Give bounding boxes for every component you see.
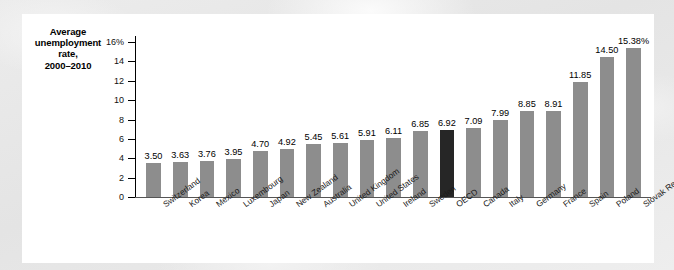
x-axis-category-label: France bbox=[561, 201, 567, 209]
y-axis-tick-label: 10 bbox=[98, 95, 124, 105]
y-axis-tick-label: 0 bbox=[98, 192, 124, 202]
y-axis-tick bbox=[128, 100, 135, 101]
x-axis-category-label: Canada bbox=[481, 201, 487, 209]
x-axis-category-label: Luxembourg bbox=[241, 201, 247, 209]
x-axis-category-label: Slovak Republic bbox=[641, 201, 647, 209]
figure-panel: Average unemployment rate, 2000–2010 024… bbox=[22, 14, 654, 263]
y-axis-tick bbox=[128, 61, 135, 62]
y-axis-tick-label: 2 bbox=[98, 172, 124, 182]
x-axis-category-label: Australia bbox=[321, 201, 327, 209]
y-axis-tick bbox=[128, 42, 135, 43]
bar-chart: Average unemployment rate, 2000–2010 024… bbox=[22, 14, 654, 263]
x-axis-category-label: Mexico bbox=[214, 201, 220, 209]
y-axis-tick-label: 16% bbox=[98, 37, 124, 47]
bar-value-label: 15.38% bbox=[614, 36, 654, 46]
y-axis-tick-label: 8 bbox=[98, 114, 124, 124]
x-axis-category-label: United Kingdom bbox=[347, 201, 353, 209]
bar-value-label: 7.09 bbox=[454, 116, 494, 126]
y-axis-tick-label: 6 bbox=[98, 133, 124, 143]
x-axis-category-label: OECD bbox=[454, 201, 460, 209]
bar bbox=[146, 163, 161, 197]
bar bbox=[573, 82, 588, 197]
y-axis-line bbox=[135, 36, 136, 198]
x-axis-category-label: New Zealand bbox=[294, 201, 300, 209]
y-axis-tick-label: 4 bbox=[98, 153, 124, 163]
bar-value-label: 8.91 bbox=[534, 99, 574, 109]
y-axis-tick-label: 12 bbox=[98, 75, 124, 85]
x-axis-category-label: Poland bbox=[614, 201, 620, 209]
bar-value-label: 11.85 bbox=[560, 70, 600, 80]
bar-value-label: 14.50 bbox=[587, 45, 627, 55]
x-axis-category-label: Italy bbox=[507, 201, 513, 209]
x-axis-category-label: Switzerland bbox=[161, 201, 167, 209]
x-axis-category-label: Ireland bbox=[401, 201, 407, 209]
y-axis-tick-label: 14 bbox=[98, 56, 124, 66]
x-axis-category-label: Sweden bbox=[427, 201, 433, 209]
bar bbox=[600, 57, 615, 197]
x-axis-category-label: Germany bbox=[534, 201, 540, 209]
x-axis-category-label: Japan bbox=[267, 201, 273, 209]
x-axis-category-label: Korea bbox=[187, 201, 193, 209]
bar bbox=[626, 48, 641, 197]
bar bbox=[520, 111, 535, 197]
y-axis-tick bbox=[128, 178, 135, 179]
y-axis-tick bbox=[128, 81, 135, 82]
y-axis-tick bbox=[128, 197, 135, 198]
y-axis-tick bbox=[128, 120, 135, 121]
y-axis-tick bbox=[128, 139, 135, 140]
x-axis-category-label: United States bbox=[374, 201, 380, 209]
x-axis-category-label: Spain bbox=[587, 201, 593, 209]
